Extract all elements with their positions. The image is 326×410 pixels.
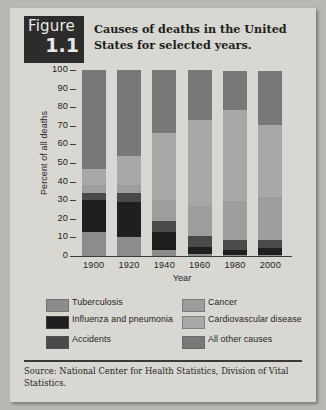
bar-segment	[82, 185, 106, 192]
legend-swatch	[182, 316, 205, 329]
bar-segment	[258, 248, 282, 255]
y-tick-mark	[70, 107, 76, 108]
bar-segment	[223, 240, 247, 249]
bar-segment	[82, 200, 106, 232]
bar-segment	[152, 221, 176, 232]
y-tick-mark	[70, 256, 76, 257]
bar-segment	[223, 250, 247, 256]
bar-segment	[188, 236, 212, 247]
chart-legend: TuberculosisInfluenza and pneumoniaAccid…	[46, 298, 304, 350]
y-tick-label: 90	[38, 83, 68, 94]
bar-segment	[188, 247, 212, 254]
y-tick-label: 10	[38, 231, 68, 242]
bar-segment	[82, 70, 106, 169]
figure-badge-word: Figure	[28, 18, 82, 35]
bar-segment	[117, 70, 141, 156]
bar-segment	[258, 197, 282, 240]
legend-swatch	[46, 336, 69, 349]
stacked-bar	[82, 70, 106, 256]
y-tick-label: 80	[38, 101, 68, 112]
plot-area	[76, 70, 288, 256]
x-axis-label: Year	[76, 273, 288, 283]
bar-segment	[258, 71, 282, 125]
bar-segment	[152, 133, 176, 200]
stacked-bar	[188, 70, 212, 256]
y-tick-mark	[70, 182, 76, 183]
legend-label: Accidents	[72, 334, 177, 345]
legend-swatch	[46, 299, 69, 312]
stacked-bar	[223, 70, 247, 256]
bar-segment	[82, 232, 106, 256]
source-divider	[24, 360, 302, 362]
bar-segment	[188, 206, 212, 236]
y-tick-label: 0	[38, 250, 68, 261]
y-tick-label: 20	[38, 213, 68, 224]
bar-segment	[152, 200, 176, 220]
legend-label: All other causes	[208, 334, 313, 345]
y-tick-mark	[70, 144, 76, 145]
figure-title: Causes of deaths in the United States fo…	[94, 22, 304, 53]
y-tick-label: 40	[38, 176, 68, 187]
figure-header: Figure 1.1 Causes of deaths in the Unite…	[24, 16, 304, 64]
legend-swatch	[46, 316, 69, 329]
bar-segment	[152, 232, 176, 251]
y-tick-label: 50	[38, 157, 68, 168]
y-tick-label: 100	[38, 64, 68, 75]
bar-segment	[223, 110, 247, 201]
legend-label: Influenza and pneumonia	[72, 314, 177, 325]
bar-segment	[152, 70, 176, 133]
y-tick-mark	[70, 70, 76, 71]
x-axis-line	[76, 256, 292, 257]
legend-label: Tuberculosis	[72, 297, 177, 308]
legend-swatch	[182, 299, 205, 312]
bar-segment	[258, 125, 282, 198]
bar-segment	[258, 240, 282, 247]
stacked-bar	[258, 70, 282, 256]
bar-segment	[82, 193, 106, 200]
legend-label: Cancer	[208, 297, 313, 308]
stacked-bar	[117, 70, 141, 256]
chart: Percent of all deaths 010203040506070809…	[24, 70, 304, 285]
x-tick-label: 2000	[247, 260, 293, 270]
legend-swatch	[182, 336, 205, 349]
y-tick-label: 60	[38, 138, 68, 149]
figure-badge: Figure 1.1	[24, 16, 84, 63]
source-note: Source: National Center for Health Stati…	[24, 365, 304, 389]
y-tick-mark	[70, 200, 76, 201]
stacked-bar	[152, 70, 176, 256]
y-tick-label: 30	[38, 194, 68, 205]
y-tick-mark	[70, 219, 76, 220]
bar-segment	[188, 120, 212, 206]
y-tick-mark	[70, 163, 76, 164]
figure-page: Figure 1.1 Causes of deaths in the Unite…	[10, 8, 316, 402]
bar-segment	[117, 202, 141, 237]
figure-badge-number: 1.1	[45, 35, 79, 56]
bar-segment	[117, 185, 141, 192]
bar-segment	[117, 237, 141, 256]
bar-segment	[82, 169, 106, 186]
bar-segment	[188, 70, 212, 120]
y-tick-mark	[70, 89, 76, 90]
bar-segment	[223, 201, 247, 240]
bar-segment	[223, 71, 247, 110]
bar-segment	[117, 193, 141, 202]
bar-segment	[117, 156, 141, 186]
y-tick-mark	[70, 126, 76, 127]
y-axis-ticks: 0102030405060708090100	[38, 70, 68, 256]
y-tick-mark	[70, 237, 76, 238]
legend-label: Cardiovascular disease	[208, 314, 313, 325]
y-tick-label: 70	[38, 120, 68, 131]
